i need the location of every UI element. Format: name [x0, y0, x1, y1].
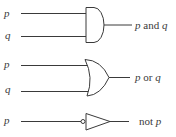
- and-gate-group: p q p and q: [3, 7, 168, 43]
- and-output-var2: q: [162, 19, 168, 31]
- and-input-q-label: q: [5, 29, 11, 41]
- and-output-op: and: [143, 19, 159, 31]
- or-input-p-label: p: [3, 58, 10, 70]
- or-input-q-label: q: [5, 83, 11, 95]
- and-gate-icon: [86, 8, 104, 43]
- logic-gate-diagram: p q p and q p q p or q p not p: [0, 0, 176, 137]
- not-bubble-icon: [81, 120, 85, 124]
- and-output-label: p and q: [134, 19, 168, 31]
- not-output-var1: p: [155, 115, 162, 127]
- or-output-var1: p: [134, 71, 141, 83]
- not-input-p-label: p: [3, 114, 10, 126]
- or-gate-icon: [85, 60, 109, 97]
- or-output-label: p or q: [134, 71, 161, 83]
- not-gate-icon: [86, 114, 110, 131]
- and-input-p-label: p: [3, 7, 10, 19]
- not-output-label: not p: [139, 115, 162, 127]
- or-output-op: or: [143, 71, 153, 83]
- or-output-var2: q: [155, 71, 161, 83]
- or-gate-group: p q p or q: [3, 58, 161, 96]
- not-output-op: not: [139, 115, 153, 127]
- not-gate-group: p not p: [3, 114, 162, 131]
- and-output-var1: p: [134, 19, 141, 31]
